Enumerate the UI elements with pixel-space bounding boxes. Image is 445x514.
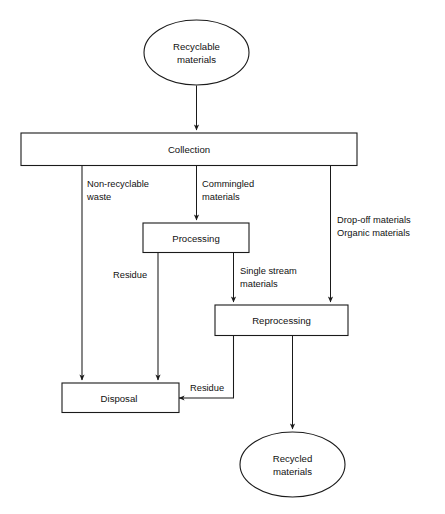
non-recyclable-waste-line1: Non-recyclable (87, 179, 149, 189)
recycled-materials-label-line1: Recycled (273, 453, 312, 464)
organic-materials-line2: Organic materials (337, 228, 410, 238)
recycled-materials-label-line2: materials (273, 466, 312, 477)
commingled-materials-line1: Commingled (202, 179, 254, 189)
edge-label-commingled-materials: Commingled materials (202, 179, 254, 202)
edge-label-non-recyclable-waste: Non-recyclable waste (86, 179, 149, 202)
processing-label: Processing (172, 233, 219, 244)
drop-off-materials-line1: Drop-off materials (337, 215, 411, 225)
residue-reprocessing-label: Residue (190, 383, 224, 393)
recycled-materials-ellipse (240, 432, 345, 497)
flowchart-canvas: Recyclable materials Collection Processi… (0, 0, 445, 514)
reprocessing-label: Reprocessing (252, 315, 311, 326)
node-disposal[interactable]: Disposal (62, 383, 179, 413)
commingled-materials-line2: materials (202, 192, 240, 202)
node-processing[interactable]: Processing (143, 223, 249, 253)
recyclable-materials-label-line1: Recyclable (173, 41, 220, 52)
recyclable-materials-label-line2: materials (177, 54, 216, 65)
node-recycled-materials[interactable]: Recycled materials (240, 432, 345, 497)
single-stream-materials-line1: Single stream (240, 266, 297, 276)
node-reprocessing[interactable]: Reprocessing (215, 305, 348, 336)
single-stream-materials-line2: materials (240, 279, 278, 289)
edge-label-single-stream-materials: Single stream materials (240, 266, 297, 289)
recyclable-materials-ellipse (144, 20, 249, 85)
edge-label-drop-off-organic-materials: Drop-off materials Organic materials (337, 215, 411, 238)
residue-processing-label: Residue (113, 270, 147, 280)
edge-label-residue-processing: Residue (113, 270, 147, 280)
flowchart-diagram: Recyclable materials Collection Processi… (0, 0, 445, 514)
non-recyclable-waste-line2: waste (86, 192, 111, 202)
collection-label: Collection (168, 144, 210, 155)
node-recyclable-materials[interactable]: Recyclable materials (144, 20, 249, 85)
edge-label-residue-reprocessing: Residue (190, 383, 224, 393)
node-collection[interactable]: Collection (21, 133, 357, 166)
disposal-label: Disposal (101, 393, 138, 404)
